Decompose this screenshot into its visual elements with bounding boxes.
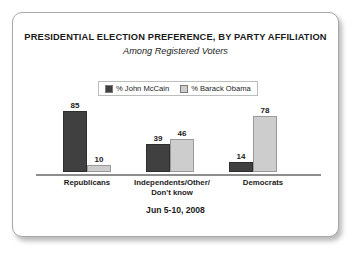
bar-value-independents-obama: 46 <box>170 129 194 138</box>
bar-value-republicans-mccain: 85 <box>63 101 87 110</box>
bar-wrap-independents-obama: 46 <box>170 139 194 172</box>
bar-group-republicans: 85 10 <box>63 111 111 172</box>
bar-value-independents-mccain: 39 <box>146 134 170 143</box>
x-axis-line <box>36 174 321 176</box>
bar-democrats-obama <box>253 116 277 172</box>
bar-value-democrats-obama: 78 <box>253 106 277 115</box>
bar-republicans-obama <box>87 165 111 172</box>
bar-democrats-mccain <box>229 162 253 172</box>
bar-wrap-democrats-obama: 78 <box>253 116 277 172</box>
bar-wrap-democrats-mccain: 14 <box>229 162 253 172</box>
chart-footer-date: Jun 5-10, 2008 <box>13 205 338 215</box>
category-label-independents-line1: Independents/Other/ <box>119 178 225 188</box>
bar-group-independents: 39 46 <box>146 139 194 172</box>
category-label-democrats: Democrats <box>213 178 313 188</box>
category-label-independents: Independents/Other/ Don't know <box>119 178 225 197</box>
bar-independents-mccain <box>146 144 170 172</box>
bar-value-democrats-mccain: 14 <box>229 152 253 161</box>
bar-wrap-independents-mccain: 39 <box>146 144 170 172</box>
bar-republicans-mccain <box>63 111 87 172</box>
category-label-democrats-line1: Democrats <box>213 178 313 188</box>
bar-independents-obama <box>170 139 194 172</box>
bar-value-republicans-obama: 10 <box>87 155 111 164</box>
plot-area: 85 10 39 46 14 <box>13 13 338 236</box>
bar-group-democrats: 14 78 <box>229 116 277 172</box>
category-label-independents-line2: Don't know <box>119 188 225 198</box>
bar-wrap-republicans-obama: 10 <box>87 165 111 172</box>
bar-wrap-republicans-mccain: 85 <box>63 111 87 172</box>
chart-card: PRESIDENTIAL ELECTION PREFERENCE, BY PAR… <box>12 12 339 237</box>
